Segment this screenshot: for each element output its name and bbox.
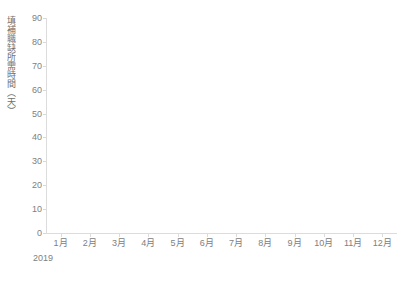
x-axis-tick-mark (90, 234, 91, 237)
y-axis-tick-mark (43, 209, 46, 210)
x-axis-tick-mark (236, 234, 237, 237)
y-axis-tick-label: 70 (16, 62, 42, 71)
y-axis-tick-mark (43, 42, 46, 43)
y-axis-tick-mark (43, 233, 46, 234)
y-axis-tick-label: 80 (16, 38, 42, 47)
x-axis-tick-label: 12月 (365, 238, 399, 248)
x-axis-tick-mark (207, 234, 208, 237)
x-axis-tick-mark (61, 234, 62, 237)
y-axis-tick-mark (43, 137, 46, 138)
plot-canvas (47, 18, 397, 233)
y-axis-tick-mark (43, 114, 46, 115)
x-axis-tick-mark (295, 234, 296, 237)
y-axis-tick-label: 30 (16, 157, 42, 166)
x-axis-tick-mark (178, 234, 179, 237)
x-axis-tick-mark (119, 234, 120, 237)
y-axis-tick-label: 10 (16, 205, 42, 214)
y-axis-tick-label: 50 (16, 110, 42, 119)
x-axis-group-label: 2019 (33, 253, 53, 263)
y-axis-tick-mark (43, 161, 46, 162)
y-axis-tick-label: 60 (16, 86, 42, 95)
x-axis-line (46, 233, 397, 234)
y-axis-tick-mark (43, 18, 46, 19)
y-axis-tick-label: 0 (16, 229, 42, 238)
y-axis-tick-label: 20 (16, 181, 42, 190)
y-axis-tick-label: 90 (16, 14, 42, 23)
y-axis-tick-mark (43, 90, 46, 91)
y-axis-title: 填補職缺所需時間（天） (1, 16, 16, 115)
x-axis-tick-mark (148, 234, 149, 237)
y-axis-tick-labels: 0102030405060708090 (16, 0, 42, 281)
x-axis-tick-mark (324, 234, 325, 237)
y-axis-tick-label: 40 (16, 133, 42, 142)
x-axis-tick-mark (353, 234, 354, 237)
x-axis-tick-mark (382, 234, 383, 237)
y-axis-tick-mark (43, 185, 46, 186)
y-axis-tick-mark (43, 66, 46, 67)
chart-area: 填補職缺所需時間（天） 0102030405060708090 1月2月3月4月… (0, 0, 411, 281)
x-axis-tick-mark (265, 234, 266, 237)
